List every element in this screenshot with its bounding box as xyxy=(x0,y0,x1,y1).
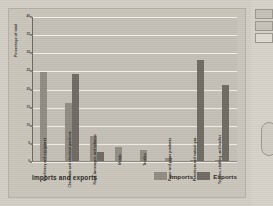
y-tick-mark xyxy=(30,107,32,108)
bar-imports[interactable] xyxy=(140,150,147,161)
bar-imports[interactable] xyxy=(190,160,197,161)
legend-swatch-exports xyxy=(197,172,210,180)
legend-label-exports: Exports xyxy=(213,173,237,180)
y-tick-mark xyxy=(30,125,32,126)
bar-imports[interactable] xyxy=(65,103,72,161)
y-tick-mark xyxy=(30,162,32,163)
bar-group: Petroleum and natural gas xyxy=(190,17,204,161)
bar-exports[interactable] xyxy=(72,74,79,161)
bar-group: Paper and paper products xyxy=(165,17,179,161)
gridline xyxy=(32,162,237,163)
bar-imports[interactable] xyxy=(40,72,47,161)
x-axis-title: Imports and exports xyxy=(32,174,97,181)
y-tick-mark xyxy=(30,89,32,90)
panel-box-3[interactable] xyxy=(255,33,273,43)
legend-item-imports: Imports xyxy=(154,172,193,180)
legend-label-imports: Imports xyxy=(170,173,193,180)
rounded-control[interactable] xyxy=(261,122,273,156)
bar-imports[interactable] xyxy=(165,158,172,161)
chart-footer: Imports and exports Imports Exports xyxy=(32,167,237,191)
bar-exports[interactable] xyxy=(197,60,204,162)
y-axis-title: Percentage of total xyxy=(14,24,18,57)
bar-group: Metals xyxy=(115,17,129,161)
y-tick-mark xyxy=(30,53,32,54)
plot-inner: 0510152025303540 Machinery and equipment… xyxy=(32,17,237,162)
chart-legend: Imports Exports xyxy=(154,172,237,180)
y-tick-mark xyxy=(30,35,32,36)
bar-groups: Machinery and equipmentChemicals and che… xyxy=(34,17,235,161)
panel-box-1[interactable] xyxy=(255,9,273,19)
y-tick-mark xyxy=(30,143,32,144)
bar-group: Textiles xyxy=(140,17,154,161)
bar-group: Textiles, clothing, and leather xyxy=(215,17,229,161)
bar-imports[interactable] xyxy=(90,136,97,161)
legend-swatch-imports xyxy=(154,172,167,180)
bar-exports[interactable] xyxy=(222,85,229,161)
plot-area: 0510152025303540 Machinery and equipment… xyxy=(32,17,237,162)
bar-group: Chemicals and chemical products xyxy=(65,17,79,161)
panel-box-2[interactable] xyxy=(255,21,273,31)
bar-exports[interactable] xyxy=(97,152,104,161)
bar-group: Machinery and equipment xyxy=(40,17,54,161)
bar-imports[interactable] xyxy=(215,160,222,161)
x-axis-line xyxy=(32,161,237,162)
side-panel xyxy=(251,0,273,206)
scanned-page-background: Percentage of total 0510152025303540 Mac… xyxy=(0,0,273,206)
y-tick-mark xyxy=(30,17,32,18)
y-axis-line xyxy=(32,17,33,162)
y-tick-mark xyxy=(30,71,32,72)
legend-item-exports: Exports xyxy=(197,172,237,180)
bar-imports[interactable] xyxy=(115,147,122,162)
bar-group: Food, beverages, and tobacco xyxy=(90,17,104,161)
chart-figure: Percentage of total 0510152025303540 Mac… xyxy=(8,8,246,198)
